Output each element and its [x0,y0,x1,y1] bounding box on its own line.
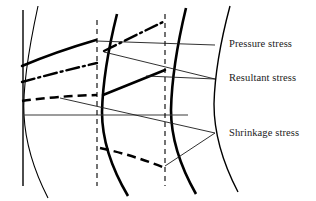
station-lines [97,14,165,186]
arc-inner-icon [24,6,48,198]
arc-outer-boundary [214,6,238,192]
axes [23,10,188,186]
pressure-stress-band-1 [22,40,96,66]
pressure-stress-band-2 [103,70,165,95]
label-pressure-stress: Pressure stress [229,38,292,49]
leader-line-pressure [96,41,215,45]
boundary-arcs [24,6,238,198]
leader-line-resultant-upper [104,52,215,79]
stress-diagram [0,0,316,201]
label-shrinkage-stress: Shrinkage stress [229,127,299,138]
figure-root: Pressure stress Resultant stress Shrinka… [0,0,316,201]
resultant-stress-curve [22,22,163,82]
shrinkage-stress-band-1 [22,95,97,101]
leader-line-shrinkage-lower [165,133,215,166]
resultant-stress-band-1 [22,63,97,82]
arc-second-boundary [171,8,196,194]
leader-lines [60,41,215,166]
pressure-stress-curve [22,40,165,95]
label-resultant-stress: Resultant stress [229,72,296,83]
